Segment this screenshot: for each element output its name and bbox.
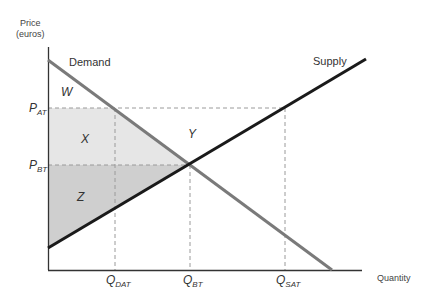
q-dat-label: QDAT [106,273,131,289]
y-axis-title-line1: Price [16,18,45,29]
y-axis-title-line2: (euros) [16,29,45,40]
supply-label: Supply [313,55,347,67]
q-dat-main: Q [106,273,115,287]
x-axis-title: Quantity [377,273,411,284]
p-at-main: P [29,101,37,115]
area-w-label: W [61,85,72,99]
area-y-label: Y [188,127,196,141]
p-at-label: PAT [29,101,47,117]
area-z-label: Z [77,190,84,204]
p-at-sub: AT [37,108,47,117]
q-bt-sub: BT [192,280,202,289]
area-x-label: X [81,132,89,146]
p-bt-sub: BT [37,165,47,174]
q-dat-sub: DAT [115,280,130,289]
q-sat-main: Q [276,273,285,287]
p-bt-label: PBT [29,158,47,174]
p-bt-main: P [29,158,37,172]
y-axis-title: Price (euros) [16,18,45,40]
area-x [48,108,190,165]
q-bt-main: Q [183,273,192,287]
supply-demand-diagram [0,0,432,299]
q-sat-label: QSAT [276,273,300,289]
q-sat-sub: SAT [285,280,300,289]
demand-label: Demand [69,56,111,68]
q-bt-label: QBT [183,273,203,289]
